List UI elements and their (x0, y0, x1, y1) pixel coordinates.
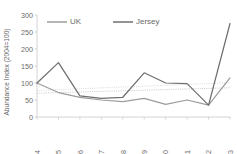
y-tick-label: 150 (21, 62, 33, 71)
x-tick-label: 2010 (161, 150, 170, 154)
series-line-jersey (37, 24, 230, 106)
legend-label-uk: UK (70, 17, 82, 26)
x-tick-label: 2013 (226, 150, 235, 154)
x-tick-label: 2009 (140, 150, 149, 154)
abundance-index-line-chart: Abundance Index (2004=100) 0501001502002… (0, 0, 237, 154)
x-tick-label: 2011 (183, 150, 192, 154)
chart-legend: UKJersey (47, 17, 160, 26)
trendline-uk-trend (37, 88, 230, 93)
x-tick-label: 2012 (204, 150, 213, 154)
y-tick-label: 250 (21, 28, 33, 37)
y-tick-label: 0 (29, 113, 33, 122)
y-tick-label: 50 (25, 96, 33, 105)
y-tick-label: 200 (21, 45, 33, 54)
y-axis-label: Abundance Index (2004=100) (3, 28, 11, 115)
y-tick-label: 100 (21, 79, 33, 88)
x-axis-tick-labels: 2004200520062007200820092010201120122013 (33, 150, 235, 154)
y-axis-tick-labels: 050100150200250300 (21, 11, 33, 122)
x-tick-label: 2007 (97, 150, 106, 154)
y-axis-title: Abundance Index (2004=100) (3, 28, 11, 115)
x-tick-label: 2006 (76, 150, 85, 154)
y-tick-label: 300 (21, 11, 33, 20)
trendline-jersey-trend (37, 83, 230, 91)
x-tick-label: 2008 (119, 150, 128, 154)
x-tick-label: 2004 (33, 150, 42, 154)
series-line-uk (37, 78, 230, 105)
data-series (37, 24, 230, 106)
chart-container: Abundance Index (2004=100) 0501001502002… (0, 0, 237, 154)
x-tick-label: 2005 (54, 150, 63, 154)
legend-label-jersey: Jersey (136, 17, 160, 26)
